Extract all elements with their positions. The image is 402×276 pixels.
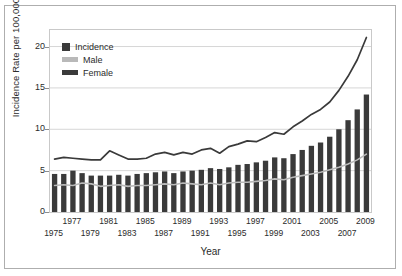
x-tick-label: 1991 <box>187 229 213 238</box>
x-tick-label: 1975 <box>41 229 67 238</box>
bar-female <box>162 171 167 212</box>
y-axis-ticks: 05101520 <box>20 29 45 213</box>
x-axis-title: Year <box>49 246 372 257</box>
y-tick-label: 15 <box>23 83 45 92</box>
y-tick-label: 5 <box>23 166 45 175</box>
bar-female <box>98 176 103 212</box>
bar-female <box>217 169 222 212</box>
bar-female <box>208 168 213 212</box>
bar-female <box>245 164 250 212</box>
bar-female <box>153 172 158 212</box>
bar-female <box>125 176 130 212</box>
bar-female <box>272 157 277 212</box>
bar-female <box>327 137 332 212</box>
bar-female <box>364 95 369 212</box>
x-tick-label: 1983 <box>114 229 140 238</box>
x-tick-label: 1999 <box>261 229 287 238</box>
x-tick-label: 2009 <box>352 217 378 226</box>
bar-female <box>254 162 259 212</box>
bar-female <box>144 173 149 212</box>
x-axis-ticks: 1977198119851989199319972001200520091975… <box>49 215 372 243</box>
x-tick-label: 1987 <box>151 229 177 238</box>
legend-swatch-female-icon <box>62 70 78 75</box>
x-tick-label: 1977 <box>59 217 85 226</box>
bar-female <box>281 158 286 212</box>
x-tick-label: 1979 <box>77 229 103 238</box>
bar-female <box>190 171 195 212</box>
chart-figure: Incidence Rate per 100,000 05101520 Inci… <box>0 0 402 276</box>
chart-legend: Incidence Male Female <box>62 41 172 80</box>
legend-label-male: Male <box>83 55 103 65</box>
y-tick-label: 10 <box>23 124 45 133</box>
bar-female <box>300 150 305 212</box>
bar-female <box>235 165 240 212</box>
x-tick-label: 1985 <box>132 217 158 226</box>
legend-swatch-male-icon <box>62 57 78 62</box>
legend-label-incidence: Incidence <box>75 42 114 52</box>
bar-female <box>116 175 121 212</box>
bar-female <box>70 171 75 212</box>
bar-female <box>309 146 314 212</box>
x-tick-label: 1993 <box>206 217 232 226</box>
bar-female <box>199 170 204 212</box>
bar-female <box>79 173 84 212</box>
bar-female <box>171 173 176 212</box>
x-tick-label: 2001 <box>279 217 305 226</box>
legend-item-male: Male <box>62 54 172 65</box>
bar-female <box>89 176 94 212</box>
bar-female <box>61 174 66 212</box>
x-tick-label: 1997 <box>242 217 268 226</box>
bar-female <box>226 167 231 212</box>
bar-female <box>290 154 295 212</box>
x-tick-label: 2007 <box>334 229 360 238</box>
legend-swatch-incidence-icon <box>62 43 70 51</box>
bar-female <box>107 176 112 212</box>
x-tick-label: 1989 <box>169 217 195 226</box>
y-axis-title: Incidence Rate per 100,000 <box>10 0 21 148</box>
y-tick-label: 20 <box>23 42 45 51</box>
x-tick-label: 2003 <box>297 229 323 238</box>
bar-female <box>263 161 268 212</box>
bar-female <box>318 143 323 212</box>
x-tick-label: 1981 <box>96 217 122 226</box>
bar-female <box>345 120 350 212</box>
bar-female <box>52 174 57 212</box>
bar-female <box>134 174 139 212</box>
legend-item-female: Female <box>62 67 172 78</box>
x-tick-label: 2005 <box>316 217 342 226</box>
bar-female <box>180 171 185 212</box>
bar-female <box>336 129 341 212</box>
x-tick-label: 1995 <box>224 229 250 238</box>
legend-item-incidence: Incidence <box>62 41 172 52</box>
y-tick-label: 0 <box>23 207 45 216</box>
legend-label-female: Female <box>83 68 113 78</box>
